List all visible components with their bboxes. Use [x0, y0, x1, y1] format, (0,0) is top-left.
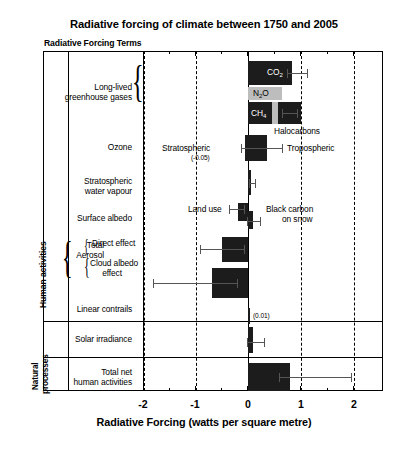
gridline-minus1	[196, 51, 197, 391]
tick-bottom-plus1	[300, 386, 301, 391]
tick-top-plus1	[300, 51, 301, 56]
annotation-tropospheric-ozone: Tropospheric	[287, 143, 334, 153]
errorbar-total-net-cap-low	[279, 373, 280, 382]
brace-cloud-albedo-effect: {	[84, 254, 90, 278]
errorbar-solar-cap-high	[264, 338, 265, 347]
errorbar-swv-cap-high	[255, 179, 256, 188]
brace-greenhouse-gases: {	[132, 60, 144, 104]
annotation-halocarbons: Halocarbons	[274, 126, 320, 136]
errorbar-cloud-albedo-cap-high	[237, 279, 238, 288]
tick-top-minus1	[195, 51, 196, 56]
errorbar-ozone-cap-high	[282, 144, 283, 153]
xtick-label-minus2: -2	[128, 398, 158, 410]
errorbar-land-use	[229, 209, 245, 210]
errorbar-land-use-cap-high	[244, 205, 245, 214]
annotation-ozone-value: (-0.05)	[191, 154, 210, 161]
row-label-ozone: Ozone	[72, 142, 132, 152]
bar-label-n2o: N2O	[253, 88, 269, 99]
group-label-human-activities: Human activities	[38, 241, 48, 308]
errorbar-halocarbons	[282, 113, 298, 114]
bar-surface-albedo-land-use	[238, 203, 248, 221]
errorbar-ozone-cap-low	[241, 144, 242, 153]
xtick-label-zero: 0	[233, 398, 263, 410]
row-label-cloud-albedo-line1: Cloud albedo	[90, 258, 134, 268]
errorbar-ozone	[241, 148, 283, 149]
row-label-cloud-albedo-line2: effect	[90, 268, 134, 278]
gridline-minus2	[144, 51, 145, 391]
bar-solar-irradiance	[248, 327, 253, 353]
errorbar-land-use-cap-low	[229, 205, 230, 214]
errorbar-co2	[287, 73, 308, 74]
tick-top-minus0p5	[221, 51, 222, 54]
annotation-black-carbon-line1: Black carbon	[266, 204, 313, 214]
row-label-solar-irradiance: Solar irradiance	[56, 334, 132, 344]
tick-bottom-plus2	[353, 386, 354, 391]
errorbar-black-carbon	[247, 221, 261, 222]
chart-subtitle: Radiative Forcing Terms	[44, 38, 141, 48]
row-label-total-net-line2: human activities	[44, 377, 132, 387]
errorbar-direct-effect-cap-low	[200, 245, 201, 254]
tick-top-zero	[247, 51, 248, 56]
annotation-land-use: Land use	[188, 204, 222, 214]
row-label-swv-line2: water vapour	[62, 186, 132, 196]
errorbar-cloud-albedo	[153, 283, 238, 284]
errorbar-direct-effect	[200, 249, 245, 250]
gridline-plus2	[354, 51, 355, 391]
row-label-direct-effect: Direct effect	[92, 238, 132, 248]
page-title: Radiative forcing of climate between 175…	[0, 18, 408, 30]
xtick-label-minus1: -1	[180, 398, 210, 410]
row-label-total-net-line1: Total net	[62, 367, 132, 377]
errorbar-co2-cap-low	[287, 69, 288, 78]
errorbar-total-net	[279, 377, 352, 378]
bar-label-co2: CO2	[267, 67, 283, 78]
tick-bottom-minus0p5	[221, 388, 222, 391]
xtick-label-plus1: 1	[286, 398, 316, 410]
tick-top-0p5	[274, 51, 275, 54]
bar-linear-contrails	[248, 308, 250, 324]
row-label-ghg-line1: Long-lived	[64, 82, 132, 92]
errorbar-swv-cap-low	[249, 179, 250, 188]
radiative-forcing-figure: Radiative forcing of climate between 175…	[0, 0, 408, 467]
errorbar-cloud-albedo-cap-low	[153, 279, 154, 288]
tick-top-minus2	[143, 51, 144, 56]
tick-bottom-minus1p5	[169, 388, 170, 391]
plot-area: CO2 N2O CH4 Halocarbons Stratospheric Tr…	[143, 51, 383, 391]
tick-bottom-minus2	[143, 386, 144, 391]
annotation-black-carbon-line2: on snow	[282, 214, 313, 224]
group-label-natural-line2: processes	[41, 354, 50, 394]
errorbar-total-net-cap-high	[351, 373, 352, 382]
tick-bottom-1p5	[327, 388, 328, 391]
tick-top-minus1p5	[169, 51, 170, 54]
errorbar-direct-effect-cap-high	[244, 245, 245, 254]
errorbar-halocarbons-cap-low	[282, 109, 283, 118]
errorbar-black-carbon-cap-low	[247, 217, 248, 226]
tick-top-1p5	[327, 51, 328, 54]
annotation-stratospheric-ozone: Stratospheric	[162, 143, 210, 153]
group-label-natural-line1: Natural	[31, 362, 40, 390]
errorbar-black-carbon-cap-high	[260, 217, 261, 226]
x-axis-title: Radiative Forcing (watts per square metr…	[0, 416, 408, 428]
row-label-linear-contrails: Linear contrails	[56, 304, 132, 314]
xtick-label-plus2: 2	[339, 398, 369, 410]
tick-top-plus2	[353, 51, 354, 56]
errorbar-solar-irradiance	[247, 342, 265, 343]
tick-bottom-minus1	[195, 386, 196, 391]
annotation-contrail-value: (0.01)	[253, 312, 270, 319]
row-label-surface-albedo: Surface albedo	[60, 213, 132, 223]
errorbar-halocarbons-cap-high	[297, 109, 298, 118]
errorbar-solar-cap-low	[247, 338, 248, 347]
brace-total-aerosol: {	[62, 236, 73, 280]
row-label-ghg-line2: greenhouse gases	[50, 92, 132, 102]
bar-label-ch4: CH4	[251, 108, 266, 119]
errorbar-co2-cap-high	[307, 69, 308, 78]
row-label-swv-line1: Stratospheric	[62, 176, 132, 186]
